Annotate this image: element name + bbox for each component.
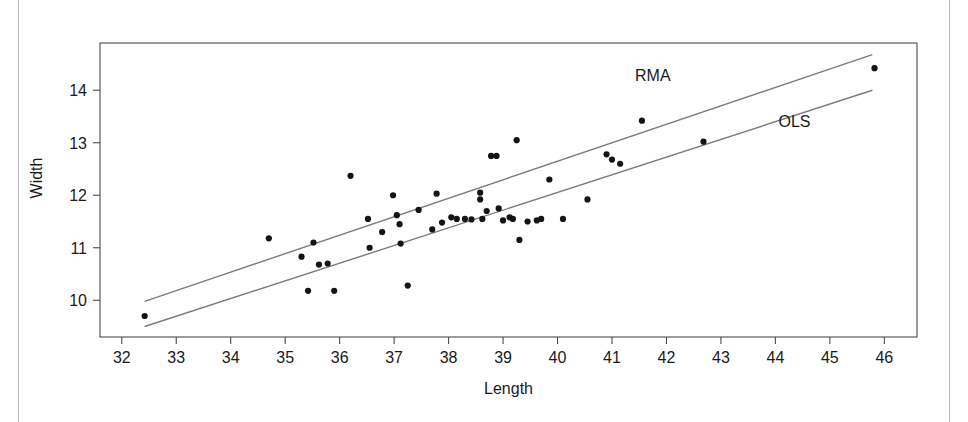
data-point (398, 240, 404, 246)
data-point (477, 196, 483, 202)
data-point (484, 208, 490, 214)
y-tick-label: 13 (69, 135, 87, 152)
data-point (439, 219, 445, 225)
data-point (488, 153, 494, 159)
data-point (310, 239, 316, 245)
data-point (434, 191, 440, 197)
data-point (325, 260, 331, 266)
data-point (500, 217, 506, 223)
data-point (390, 192, 396, 198)
plot-frame-group (100, 43, 917, 337)
x-tick-label: 38 (440, 349, 458, 366)
line-label-rma: RMA (635, 67, 671, 84)
data-point (609, 156, 615, 162)
y-tick-label: 12 (69, 187, 87, 204)
data-point (584, 196, 590, 202)
data-point (617, 161, 623, 167)
data-point (298, 254, 304, 260)
x-tick-label: 34 (222, 349, 240, 366)
x-tick-label: 33 (167, 349, 185, 366)
data-point (266, 235, 272, 241)
data-point (871, 65, 877, 71)
data-point (479, 216, 485, 222)
x-tick-label: 40 (549, 349, 567, 366)
data-point (493, 153, 499, 159)
data-point (516, 237, 522, 243)
data-point (316, 261, 322, 267)
data-point (538, 216, 544, 222)
y-tick-label: 11 (70, 240, 87, 257)
data-point (546, 176, 552, 182)
regression-lines (145, 55, 873, 327)
regression-line-labels: RMAOLS (635, 67, 810, 130)
x-tick-label: 43 (712, 349, 730, 366)
x-tick-label: 37 (385, 349, 403, 366)
x-tick-label: 42 (658, 349, 676, 366)
data-points (142, 65, 878, 319)
data-point (394, 212, 400, 218)
x-tick-label: 36 (331, 349, 349, 366)
data-point (379, 229, 385, 235)
data-point (514, 137, 520, 143)
data-point (396, 221, 402, 227)
data-point (365, 216, 371, 222)
data-point (305, 288, 311, 294)
data-point (639, 118, 645, 124)
data-point (462, 216, 468, 222)
x-axis-ticks: 323334353637383940414243444546 (113, 337, 893, 366)
plot-frame (100, 43, 917, 337)
y-tick-label: 10 (69, 292, 87, 309)
data-point (448, 214, 454, 220)
scatter-plot-figure: 323334353637383940414243444546 101112131… (0, 0, 968, 422)
y-axis-title: Width (28, 158, 45, 199)
chart-svg: 323334353637383940414243444546 101112131… (0, 0, 968, 422)
regression-line-ols (145, 90, 873, 326)
data-point (700, 139, 706, 145)
data-point (454, 216, 460, 222)
scanned-figure-page: 323334353637383940414243444546 101112131… (0, 0, 968, 422)
y-tick-label: 14 (69, 82, 87, 99)
data-point (477, 190, 483, 196)
data-point (496, 205, 502, 211)
x-tick-label: 39 (494, 349, 512, 366)
data-point (429, 226, 435, 232)
data-point (603, 151, 609, 157)
data-point (510, 216, 516, 222)
data-point (405, 282, 411, 288)
line-label-ols: OLS (778, 113, 810, 130)
data-point (468, 216, 474, 222)
data-point (560, 216, 566, 222)
data-point (416, 207, 422, 213)
data-point (331, 288, 337, 294)
x-tick-label: 46 (875, 349, 893, 366)
x-tick-label: 45 (821, 349, 839, 366)
x-tick-label: 35 (276, 349, 294, 366)
data-point (367, 245, 373, 251)
x-axis-title: Length (484, 380, 533, 397)
x-tick-label: 44 (766, 349, 784, 366)
data-point (142, 313, 148, 319)
x-tick-label: 32 (113, 349, 131, 366)
x-tick-label: 41 (603, 349, 621, 366)
regression-line-rma (145, 55, 873, 302)
y-axis-ticks: 1011121314 (69, 82, 100, 309)
data-point (347, 173, 353, 179)
data-point (524, 218, 530, 224)
